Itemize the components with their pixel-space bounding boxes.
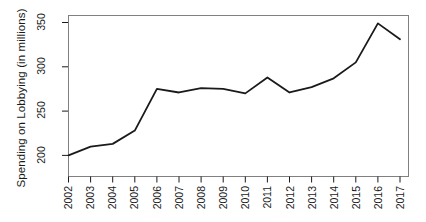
line-chart: Spending on Lobbying (in millions) 350 3… — [0, 0, 426, 222]
data-line-spending — [69, 23, 401, 155]
x-axis-ticks — [69, 177, 401, 183]
y-axis-ticks — [62, 23, 68, 156]
plot-frame — [69, 16, 409, 177]
plot-area — [0, 0, 426, 222]
